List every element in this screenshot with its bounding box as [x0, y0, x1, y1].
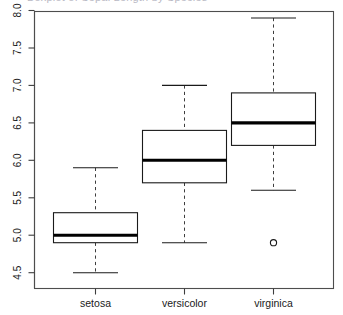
x-tick-label-virginica: virginica: [254, 297, 293, 309]
chart-title-clipped: Boxplot of Sepal Length by Species: [27, 0, 207, 3]
outlier-point-virginica: [270, 240, 276, 246]
y-tick-label-7: 4.5: [12, 265, 23, 279]
y-tick-label-4: 6.0: [12, 153, 23, 167]
box-group-virginica: [232, 18, 316, 246]
y-axis-ticks: [29, 11, 35, 273]
y-tick-label-0: 8.0: [12, 3, 23, 17]
y-tick-label-3: 6.5: [12, 116, 23, 130]
y-axis: 8.0 7.5 7.0 6.5 6.0 5.5 5.0 4.5: [12, 3, 35, 288]
x-tick-label-versicolor: versicolor: [162, 297, 207, 309]
box-group-versicolor: [143, 85, 227, 242]
y-tick-label-1: 7.5: [12, 41, 23, 55]
y-tick-label-6: 5.0: [12, 228, 23, 242]
y-tick-label-5: 5.5: [12, 190, 23, 204]
box-virginica: [232, 93, 316, 145]
y-axis-tick-labels: 8.0 7.5 7.0 6.5 6.0 5.5 5.0 4.5: [12, 3, 23, 280]
x-axis: setosa versicolor virginica: [41, 289, 333, 310]
boxplot-chart: Boxplot of Sepal Length by Species 8.0 7…: [0, 0, 343, 315]
box-setosa: [54, 213, 138, 243]
boxplot-canvas: 8.0 7.5 7.0 6.5 6.0 5.5 5.0 4.5 setosa v…: [0, 0, 343, 315]
box-group-setosa: [54, 168, 138, 273]
y-tick-label-2: 7.0: [12, 78, 23, 92]
x-tick-label-setosa: setosa: [80, 297, 111, 309]
box-versicolor: [143, 130, 227, 182]
